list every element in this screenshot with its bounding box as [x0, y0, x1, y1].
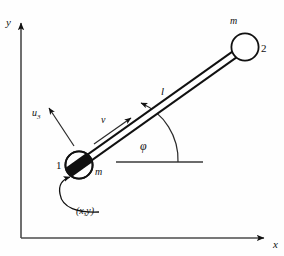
mass-node-1-mass-label: m — [95, 167, 102, 177]
unit-vector-u3-arrow — [49, 108, 74, 146]
mass-node-2-number-label: 2 — [261, 43, 267, 54]
x-axis-label: x — [273, 239, 278, 250]
mass-node-1-number-label: 1 — [56, 160, 62, 171]
velocity-vector-label: v — [101, 115, 105, 125]
mass-node-2-mass-label: m — [230, 16, 237, 26]
rod-length-label: l — [161, 86, 164, 97]
unit-vector-u3-label: u3 — [32, 108, 41, 121]
angle-phi-label: φ — [140, 140, 147, 152]
position-callout-label: (x,y) — [76, 206, 94, 216]
rod-link — [79, 47, 245, 165]
y-axis-label: y — [6, 17, 11, 28]
figure-canvas: y x 1 m 2 m l φ v u3 (x,y) — [0, 0, 284, 256]
diagram-vector-layer — [0, 0, 284, 256]
mass-node-2 — [231, 33, 258, 60]
unit-vector-u3-subscript: 3 — [37, 113, 41, 121]
